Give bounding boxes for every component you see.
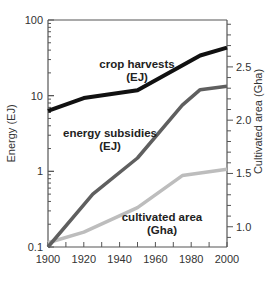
chart-background (0, 0, 273, 281)
y-right-tick-label: 1.0 (236, 221, 251, 233)
series-label-line1: energy subsidies (63, 127, 157, 139)
x-tick-label: 1960 (143, 253, 167, 265)
series-label-line2: (EJ) (99, 140, 121, 152)
series-label-line1: cultivated area (122, 211, 203, 223)
y-left-tick-label: 10 (31, 90, 43, 102)
series-label-line1: crop harvests (99, 58, 174, 70)
x-tick-label: 1900 (36, 253, 60, 265)
series-label-line2: (Gha) (147, 224, 177, 236)
y-left-axis-title: Energy (EJ) (5, 104, 17, 162)
y-right-axis-title: Cultivated area (Gha) (252, 69, 264, 174)
y-right-tick-label: 1.5 (236, 167, 251, 179)
y-left-tick-label: 0.1 (28, 241, 43, 253)
x-tick-label: 2000 (215, 253, 239, 265)
series-label-line2: (EJ) (126, 71, 148, 83)
x-tick-label: 1940 (107, 253, 131, 265)
chart: 1900192019401960198020000.11101001.01.52… (0, 0, 273, 281)
y-left-tick-label: 100 (25, 14, 43, 26)
x-tick-label: 1920 (72, 253, 96, 265)
y-right-tick-label: 2.0 (236, 114, 251, 126)
y-left-tick-label: 1 (37, 165, 43, 177)
y-right-tick-label: 2.5 (236, 61, 251, 73)
x-tick-label: 1980 (179, 253, 203, 265)
